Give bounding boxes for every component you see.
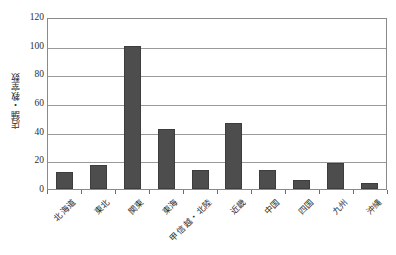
- bar[interactable]: [192, 170, 209, 189]
- bar-chart: 店舗・教室数 020406080100120 北海道東北関東東海甲信越・北陸近畿…: [0, 0, 396, 255]
- bar-slot: [82, 19, 116, 189]
- x-axis-tick: [251, 190, 252, 194]
- x-axis-tick: [217, 190, 218, 194]
- x-axis-tick: [183, 190, 184, 194]
- x-axis-tick: [115, 190, 116, 194]
- bar-slot: [217, 19, 251, 189]
- y-axis-tick-label: 40: [35, 128, 45, 138]
- bar-slot: [251, 19, 285, 189]
- bar[interactable]: [90, 165, 107, 189]
- x-axis-tick: [285, 190, 286, 194]
- x-axis-tick-label: 沖縄: [363, 195, 385, 217]
- y-axis-title-text: 店舗・教室数: [8, 72, 21, 129]
- x-axis-tick-label: 四国: [295, 195, 317, 217]
- x-axis-tick: [149, 190, 150, 194]
- bar-slot: [116, 19, 150, 189]
- bars-container: [48, 19, 386, 189]
- bar-slot: [285, 19, 319, 189]
- x-axis-tick-label: 中国: [261, 195, 283, 217]
- x-axis-tick-label: 東北: [91, 195, 113, 217]
- bar[interactable]: [158, 129, 175, 189]
- x-axis-tick-label: 関東: [125, 195, 147, 217]
- x-axis-tick-label: 北海道: [50, 195, 78, 223]
- plot-area: [47, 18, 387, 190]
- x-axis-tick-labels: 北海道東北関東東海甲信越・北陸近畿中国四国九州沖縄: [47, 195, 387, 255]
- bar[interactable]: [327, 163, 344, 189]
- x-axis-tick-label: 東海: [159, 195, 181, 217]
- x-axis-tick: [319, 190, 320, 194]
- y-axis-tick-label: 0: [39, 185, 44, 195]
- y-axis-tick-label: 60: [35, 99, 45, 109]
- y-axis-tick-labels: 020406080100120: [20, 18, 44, 190]
- x-axis-tick-label: 九州: [329, 195, 351, 217]
- x-axis-ticks: [47, 190, 387, 194]
- y-axis-tick-label: 100: [30, 42, 44, 52]
- bar[interactable]: [56, 172, 73, 189]
- bar-slot: [48, 19, 82, 189]
- bar[interactable]: [124, 46, 141, 189]
- y-axis-tick-label: 120: [30, 13, 44, 23]
- bar[interactable]: [293, 180, 310, 189]
- bar[interactable]: [361, 183, 378, 189]
- bar-slot: [352, 19, 386, 189]
- bar[interactable]: [225, 123, 242, 189]
- bar[interactable]: [259, 170, 276, 189]
- x-axis-tick: [47, 190, 48, 194]
- x-axis-tick: [387, 190, 388, 194]
- x-axis-tick: [353, 190, 354, 194]
- bar-slot: [318, 19, 352, 189]
- x-axis-tick-label: 近畿: [227, 195, 249, 217]
- y-axis-title: 店舗・教室数: [7, 0, 21, 200]
- x-axis-tick: [81, 190, 82, 194]
- bar-slot: [149, 19, 183, 189]
- bar-slot: [183, 19, 217, 189]
- y-axis-tick-label: 80: [35, 71, 45, 81]
- y-axis-tick-label: 20: [35, 157, 45, 167]
